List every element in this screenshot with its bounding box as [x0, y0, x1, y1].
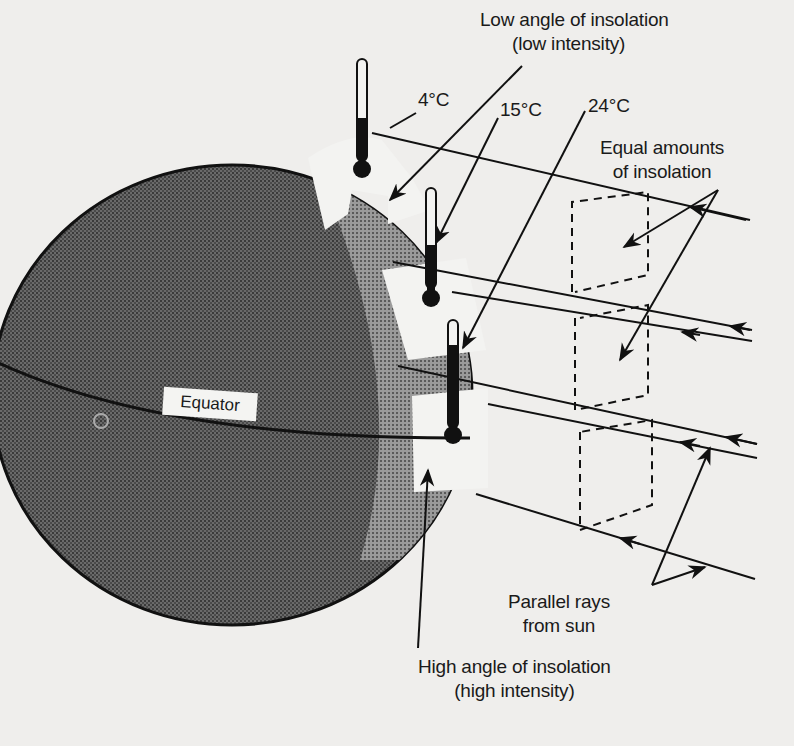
temp-label-15c: 15°C	[500, 98, 542, 122]
parallel-rays-label: Parallel rays from sun	[508, 590, 610, 638]
equal-insolation-label: Equal amounts of insolation	[600, 136, 724, 184]
equal-line2: of insolation	[600, 160, 724, 184]
high-angle-label: High angle of insolation (high intensity…	[418, 655, 611, 703]
temp-label-4c: 4°C	[418, 88, 449, 112]
low-angle-title: Low angle of insolation	[480, 8, 710, 32]
insolation-diagram	[0, 0, 794, 746]
globe	[0, 137, 488, 625]
parallel-line1: Parallel rays	[508, 590, 610, 614]
low-angle-label: Low angle of insolation (low intensity)	[480, 8, 710, 56]
equal-insolation-boxes	[572, 192, 652, 530]
low-angle-subtitle: (low intensity)	[480, 32, 710, 56]
equal-line1: Equal amounts	[600, 136, 724, 160]
parallel-line2: from sun	[508, 614, 610, 638]
temp-label-24c: 24°C	[588, 94, 630, 118]
high-angle-subtitle: (high intensity)	[418, 679, 611, 703]
high-angle-title: High angle of insolation	[418, 655, 611, 679]
